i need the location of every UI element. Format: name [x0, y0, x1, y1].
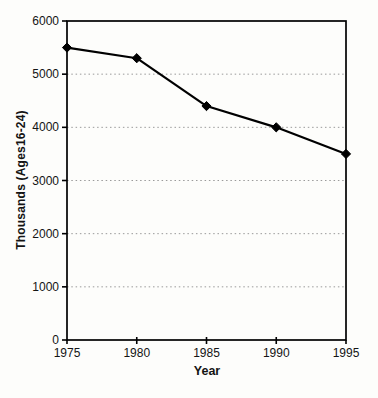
x-tick-label: 1980	[123, 346, 150, 360]
data-point-marker	[272, 123, 281, 132]
y-tick-label: 3000	[32, 174, 59, 188]
y-tick-label: 6000	[32, 14, 59, 28]
x-tick-label: 1990	[263, 346, 290, 360]
x-tick-label: 1985	[193, 346, 220, 360]
y-tick-label: 0	[52, 333, 59, 347]
x-tick-label: 1975	[54, 346, 81, 360]
line-chart-figure: 0100020003000400050006000197519801985199…	[0, 0, 378, 398]
y-tick-label: 5000	[32, 67, 59, 81]
y-tick-label: 2000	[32, 227, 59, 241]
data-line	[67, 48, 346, 154]
x-tick-label: 1995	[333, 346, 360, 360]
y-axis-title: Thousands (Ages16-24)	[14, 110, 28, 250]
y-tick-label: 4000	[32, 120, 59, 134]
x-axis-title: Year	[194, 364, 220, 378]
y-tick-label: 1000	[32, 280, 59, 294]
line-chart-canvas: 0100020003000400050006000197519801985199…	[0, 0, 378, 398]
data-point-marker	[62, 43, 71, 52]
data-point-marker	[341, 149, 350, 158]
chart-page: 0100020003000400050006000197519801985199…	[0, 0, 378, 398]
